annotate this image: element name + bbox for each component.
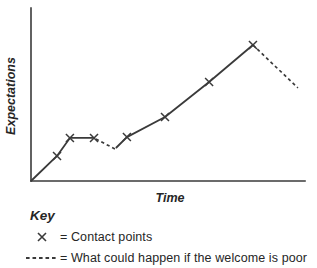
series-poor-welcome-fall [253, 45, 298, 88]
key-item-poor-welcome: = What could happen if the welcome is po… [26, 251, 317, 265]
contact-point-marker [53, 152, 61, 160]
series-recovery-climb [116, 45, 253, 148]
key-section: Key = Contact points = What could happen… [0, 208, 317, 265]
key-item-label: = What could happen if the welcome is po… [60, 251, 307, 265]
contact-point-marker [123, 133, 131, 141]
key-title: Key [30, 208, 317, 223]
dashed-line-icon [26, 255, 57, 261]
x-axis-label: Time [156, 191, 185, 205]
contact-point-marker [161, 113, 169, 121]
contact-point-marker [205, 78, 213, 86]
y-axis-label: Expectations [4, 57, 18, 135]
key-item-contact-points: = Contact points [26, 230, 317, 244]
expectations-chart: Expectations Time [0, 0, 317, 205]
series-initial-rise [31, 138, 94, 181]
x-marker-icon [26, 231, 57, 243]
contact-point-marker [249, 41, 257, 49]
key-item-label: = Contact points [60, 230, 152, 244]
markers-layer [53, 41, 257, 160]
series-poor-welcome-dip [96, 139, 115, 149]
expectations-figure: Expectations Time Key = Contact points =… [0, 0, 317, 268]
series-layer [31, 45, 298, 181]
